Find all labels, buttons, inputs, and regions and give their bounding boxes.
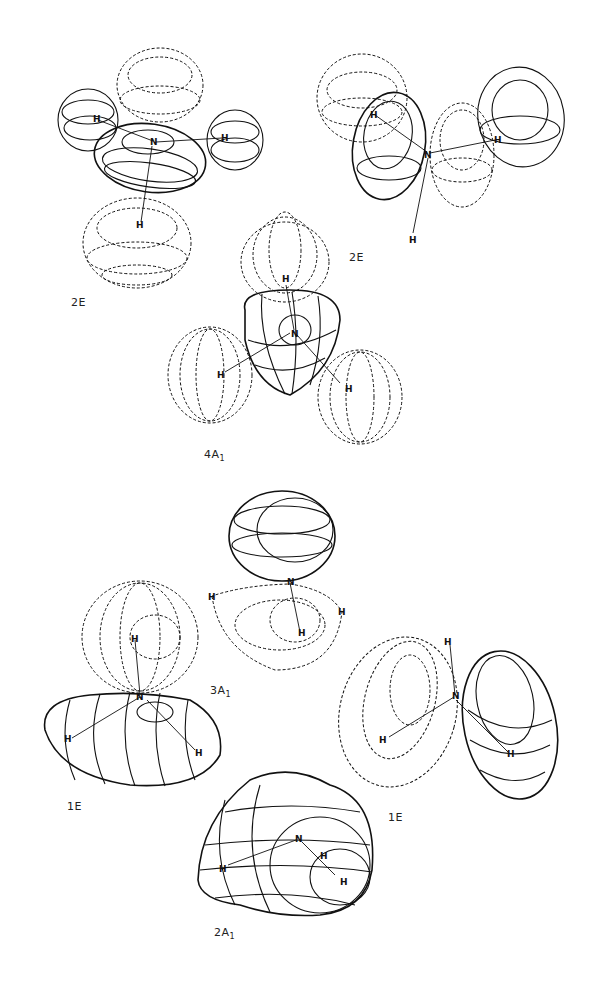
label-1e-right: 1E (388, 811, 403, 824)
orbital-figure: N H H H N H H H (0, 0, 592, 989)
svg-text:H: H (379, 735, 387, 745)
svg-text:N: N (136, 692, 144, 702)
svg-text:H: H (338, 607, 346, 617)
orbital-3a1: N H H H (208, 491, 346, 670)
svg-text:H: H (444, 637, 452, 647)
orbital-4a1: N H H H (168, 212, 402, 444)
svg-text:H: H (64, 734, 72, 744)
svg-text:H: H (370, 110, 378, 120)
svg-text:H: H (221, 133, 229, 143)
svg-text:H: H (507, 749, 515, 759)
svg-text:H: H (136, 220, 144, 230)
svg-text:H: H (93, 114, 101, 124)
svg-text:H: H (208, 592, 216, 602)
svg-text:N: N (150, 137, 158, 147)
svg-text:H: H (282, 274, 290, 284)
svg-text:H: H (340, 877, 348, 887)
label-2a1: 2A1 (214, 926, 235, 941)
svg-text:H: H (345, 384, 353, 394)
svg-text:H: H (298, 628, 306, 638)
label-2e-right: 2E (349, 251, 364, 264)
svg-text:H: H (131, 634, 139, 644)
svg-text:H: H (195, 748, 203, 758)
svg-text:N: N (424, 150, 432, 160)
svg-text:H: H (494, 135, 502, 145)
label-1e-left: 1E (67, 800, 82, 813)
orbital-2a1: N H H H (198, 772, 373, 915)
orbital-1e-left: N H H H (45, 581, 221, 786)
label-2e-left: 2E (71, 296, 86, 309)
orbital-1e-right: N H H H (322, 624, 570, 808)
svg-text:H: H (409, 235, 417, 245)
orbital-2e-right: N H H H (317, 54, 572, 245)
svg-text:H: H (219, 864, 227, 874)
label-4a1: 4A1 (204, 448, 225, 463)
svg-text:H: H (217, 370, 225, 380)
label-3a1: 3A1 (210, 684, 231, 699)
svg-text:N: N (287, 577, 295, 587)
orbital-2e-left: N H H H (58, 48, 263, 288)
svg-text:N: N (291, 329, 299, 339)
svg-text:N: N (452, 691, 460, 701)
svg-text:N: N (295, 834, 303, 844)
svg-text:H: H (320, 851, 328, 861)
